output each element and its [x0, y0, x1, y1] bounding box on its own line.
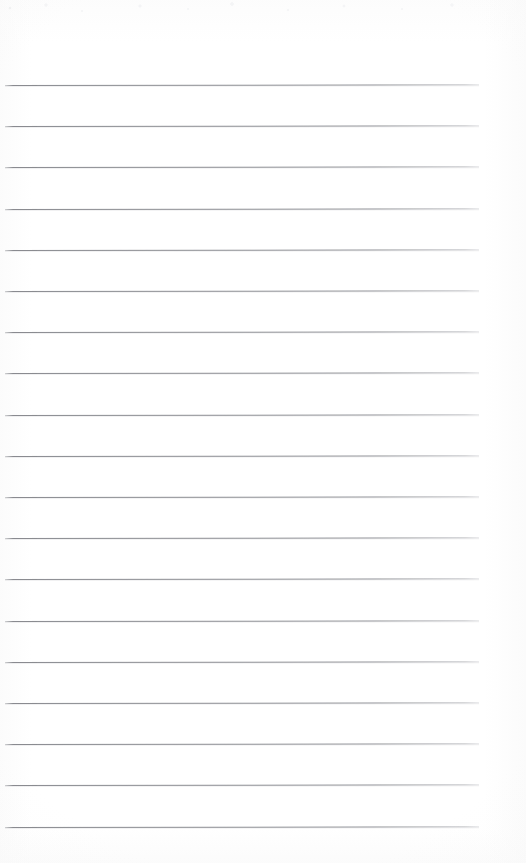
- ruled-line: [5, 620, 479, 622]
- ruled-line: [5, 537, 479, 539]
- scanned-page: [0, 0, 526, 863]
- ruled-line: [5, 249, 479, 251]
- ruled-line: [5, 455, 479, 457]
- ruled-line: [5, 743, 479, 745]
- ruled-line: [5, 661, 479, 663]
- ruled-line: [5, 208, 479, 210]
- ruled-line: [5, 496, 479, 498]
- ruled-line: [5, 826, 479, 828]
- ruled-line: [5, 373, 479, 375]
- ruled-line: [5, 84, 479, 86]
- ruled-line: [5, 702, 479, 704]
- ruled-line: [5, 167, 479, 169]
- ruled-lines-group: [0, 0, 526, 863]
- ruled-line: [5, 414, 479, 416]
- ruled-line: [5, 125, 479, 127]
- ruled-line: [5, 331, 479, 333]
- ruled-line: [5, 785, 479, 787]
- ruled-line: [5, 290, 479, 292]
- ruled-line: [5, 579, 479, 581]
